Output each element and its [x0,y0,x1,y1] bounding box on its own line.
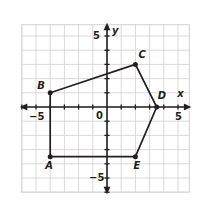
coordinate-plane-figure: x y 0 −5 5 5 −5 A B C D E [0,0,210,221]
y-axis-label: y [112,26,119,36]
y-tick-label-neg5: −5 [89,173,104,183]
vertex-label-a: A [45,161,53,171]
x-tick-label-neg5: −5 [29,112,44,122]
origin-label: 0 [96,111,103,121]
vertex-label-e: E [133,161,140,171]
y-tick-label-5: 5 [93,31,100,41]
x-axis-label: x [177,89,183,99]
vertex-label-d: D [158,91,166,101]
x-tick-label-5: 5 [175,112,182,122]
vertex-label-c: C [138,50,145,60]
vertex-label-b: B [37,81,45,91]
